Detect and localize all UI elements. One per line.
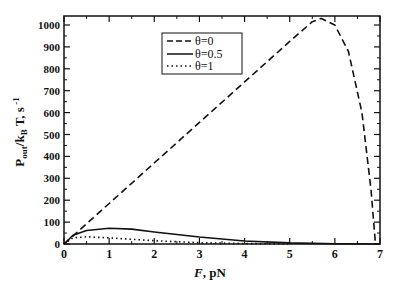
y-tick-label: 1000 <box>38 19 61 31</box>
y-tick-label: 0 <box>55 238 61 250</box>
x-tick-label: 1 <box>106 247 112 261</box>
y-tick-label: 400 <box>44 150 61 162</box>
y-axis-label: Pout/kB T, s -1 <box>11 97 29 167</box>
y-tick-label: 800 <box>44 63 61 75</box>
y-tick-label: 200 <box>44 194 61 206</box>
y-tick-label: 600 <box>44 107 61 119</box>
x-tick-label: 2 <box>151 247 157 261</box>
legend: θ=0 θ=0.5 θ=1 <box>162 33 242 74</box>
y-tick-label: 700 <box>44 85 61 97</box>
legend-theta1: θ=1 <box>195 59 214 73</box>
x-tick-label: 5 <box>287 247 293 261</box>
x-tick-label: 0 <box>61 247 67 261</box>
x-axis-label: F, pN <box>193 265 226 280</box>
legend-theta0: θ=0 <box>195 34 214 48</box>
y-tick-label: 900 <box>44 41 61 53</box>
y-tick-label: 300 <box>44 172 61 184</box>
x-tick-label: 7 <box>377 247 383 261</box>
x-tick-label: 4 <box>242 247 248 261</box>
y-tick-label: 100 <box>44 216 61 228</box>
y-tick-label: 500 <box>44 129 61 141</box>
x-tick-label: 6 <box>332 247 338 261</box>
x-tick-label: 3 <box>196 247 202 261</box>
chart: 0123456701002003004005006007008009001000… <box>0 0 402 286</box>
